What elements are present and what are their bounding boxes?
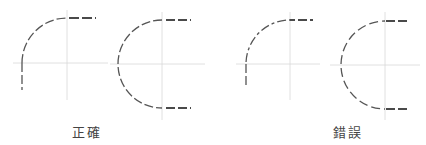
label-correct: 正確 <box>72 122 102 141</box>
hidden-arc <box>22 18 67 63</box>
label-incorrect: 錯誤 <box>333 122 363 141</box>
quarter-arc-incorrect <box>236 12 320 100</box>
hidden-arc <box>246 20 290 64</box>
semicircle-correct <box>110 12 205 120</box>
quarter-arc-correct <box>13 10 108 100</box>
semicircle-incorrect <box>330 12 420 120</box>
